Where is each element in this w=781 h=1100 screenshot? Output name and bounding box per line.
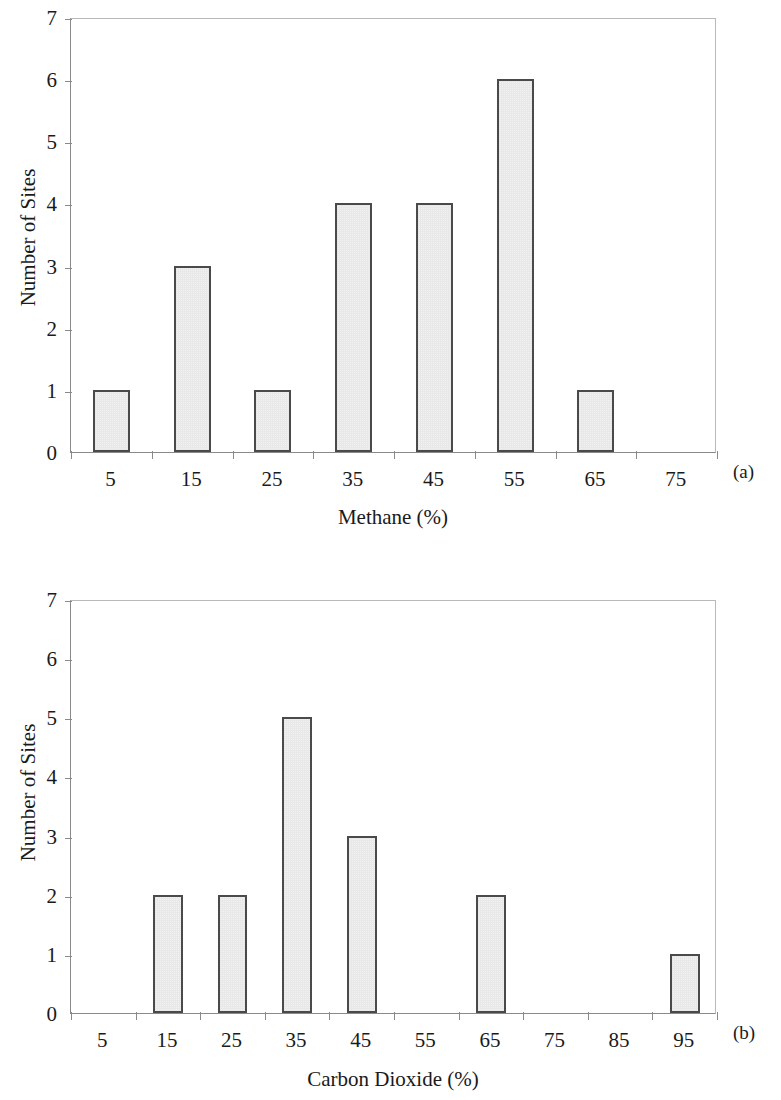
y-tick xyxy=(65,268,72,269)
x-tick xyxy=(636,451,637,459)
x-tick xyxy=(556,451,557,459)
bar xyxy=(335,203,372,452)
y-tick xyxy=(65,838,72,839)
y-tick xyxy=(65,392,72,393)
y-tick xyxy=(65,19,72,20)
x-tick-label: 65 xyxy=(479,1030,500,1051)
x-tick xyxy=(717,1012,718,1020)
x-tick xyxy=(329,1012,330,1020)
y-tick-label: 6 xyxy=(47,649,58,670)
bar xyxy=(218,895,248,1013)
y-tick-label: 0 xyxy=(47,1004,58,1025)
y-axis-title-a: Number of Sites xyxy=(16,148,41,328)
x-tick xyxy=(313,451,314,459)
bar xyxy=(670,954,700,1013)
x-tick xyxy=(588,1012,589,1020)
y-tick xyxy=(65,719,72,720)
x-tick xyxy=(233,451,234,459)
x-tick xyxy=(394,1012,395,1020)
y-tick-label: 7 xyxy=(47,8,58,29)
x-tick-label: 25 xyxy=(261,469,282,490)
y-tick xyxy=(65,81,72,82)
x-tick xyxy=(71,1012,72,1020)
bar xyxy=(174,266,211,452)
y-tick-label: 0 xyxy=(47,443,58,464)
x-axis-title-b: Carbon Dioxide (%) xyxy=(70,1067,716,1092)
x-axis-title-a: Methane (%) xyxy=(70,505,716,530)
y-tick-label: 1 xyxy=(47,380,58,401)
bar xyxy=(416,203,453,452)
y-tick xyxy=(65,330,72,331)
x-tick-label: 35 xyxy=(342,469,363,490)
bar xyxy=(153,895,183,1013)
y-tick-label: 5 xyxy=(47,708,58,729)
y-tick xyxy=(65,778,72,779)
x-tick xyxy=(152,451,153,459)
y-tick-label: 7 xyxy=(47,590,58,611)
figure-histograms: Number of Sites 01234567 515253545556575… xyxy=(0,0,781,1100)
y-axis-title-b: Number of Sites xyxy=(16,703,41,883)
y-tick-label: 2 xyxy=(47,318,58,339)
x-tick-label: 5 xyxy=(97,1030,108,1051)
x-tick xyxy=(394,451,395,459)
panel-tag-b: (b) xyxy=(733,1022,755,1044)
x-tick xyxy=(717,451,718,459)
plot-area-a xyxy=(70,18,716,453)
x-tick-label: 35 xyxy=(286,1030,307,1051)
chart-panel-b: Number of Sites 01234567 515253545556575… xyxy=(0,555,781,1100)
y-tick-label: 2 xyxy=(47,885,58,906)
x-tick-label: 75 xyxy=(544,1030,565,1051)
x-tick xyxy=(652,1012,653,1020)
x-tick-label: 15 xyxy=(156,1030,177,1051)
y-tick xyxy=(65,897,72,898)
x-tick xyxy=(475,451,476,459)
x-tick xyxy=(459,1012,460,1020)
x-tick-label: 5 xyxy=(105,469,116,490)
x-tick xyxy=(265,1012,266,1020)
y-tick-label: 3 xyxy=(47,826,58,847)
x-tick-label: 15 xyxy=(181,469,202,490)
x-tick-label: 95 xyxy=(673,1030,694,1051)
x-tick xyxy=(200,1012,201,1020)
bar xyxy=(93,390,130,452)
plot-area-b xyxy=(70,600,716,1014)
x-tick-label: 45 xyxy=(423,469,444,490)
x-tick xyxy=(71,451,72,459)
y-tick xyxy=(65,143,72,144)
x-tick-label: 55 xyxy=(504,469,525,490)
chart-panel-a: Number of Sites 01234567 515253545556575… xyxy=(0,0,781,545)
bar xyxy=(577,390,614,452)
bar xyxy=(282,717,312,1013)
y-tick xyxy=(65,660,72,661)
x-tick xyxy=(136,1012,137,1020)
bar xyxy=(476,895,506,1013)
y-tick xyxy=(65,205,72,206)
bar xyxy=(347,836,377,1013)
bars-a xyxy=(71,19,715,452)
y-tick xyxy=(65,956,72,957)
x-tick-label: 75 xyxy=(665,469,686,490)
y-tick-label: 1 xyxy=(47,944,58,965)
x-tick-label: 45 xyxy=(350,1030,371,1051)
bars-b xyxy=(71,601,715,1013)
y-tick-label: 5 xyxy=(47,132,58,153)
x-tick-label: 55 xyxy=(415,1030,436,1051)
y-tick-label: 3 xyxy=(47,256,58,277)
x-tick-label: 65 xyxy=(584,469,605,490)
bar xyxy=(497,79,534,452)
bar xyxy=(254,390,291,452)
x-tick-label: 25 xyxy=(221,1030,242,1051)
panel-tag-a: (a) xyxy=(733,461,754,483)
y-tick xyxy=(65,601,72,602)
y-tick-label: 4 xyxy=(47,767,58,788)
y-tick-label: 6 xyxy=(47,70,58,91)
x-tick-label: 85 xyxy=(609,1030,630,1051)
x-tick xyxy=(523,1012,524,1020)
y-tick-label: 4 xyxy=(47,194,58,215)
